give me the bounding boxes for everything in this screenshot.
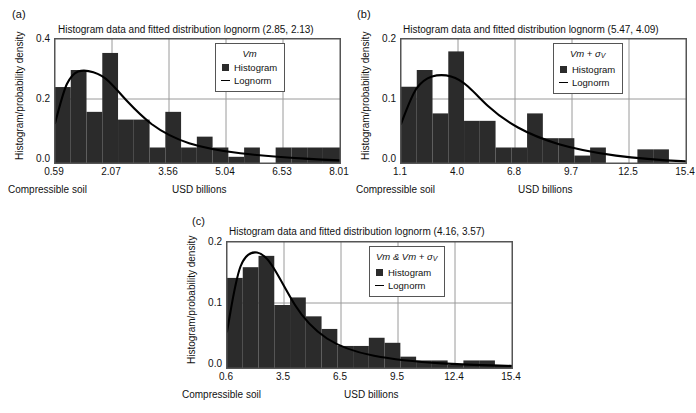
panel-c-xtick-0: 0.6	[206, 371, 246, 382]
histogram-swatch-icon	[222, 64, 229, 71]
panel-c-ytick-0: 0.0	[190, 358, 222, 369]
panel-a-title: Histogram data and fitted distribution l…	[58, 24, 314, 35]
lognorm-line-swatch-icon	[559, 82, 568, 83]
panel-a-letter: (a)	[12, 8, 26, 20]
panel-a-legend-row-lognorm: Lognorm	[222, 74, 277, 87]
panel-a-xtick-0: 0.59	[32, 166, 76, 177]
panel-c-legend-label-lognorm: Lognorm	[388, 279, 426, 292]
panel-c-xlabel: USD billions	[344, 389, 398, 400]
panel-c-xtick-2: 6.5	[320, 371, 360, 382]
panel-b-ytick-1: 0.1	[364, 93, 396, 104]
panel-c-xtick-5: 15.4	[491, 371, 531, 382]
panel-c-legend-label-histogram: Histogram	[388, 266, 431, 279]
panel-b-ytick-2: 0.2	[364, 33, 396, 44]
panel-a-xtick-4: 6.53	[260, 166, 304, 177]
panel-b-legend-label-histogram: Histogram	[572, 63, 615, 76]
panel-c-ytick-1: 0.1	[190, 297, 222, 308]
panel-b-corner-note: Compressible soil	[356, 184, 435, 195]
panel-c-xtick-1: 3.5	[263, 371, 303, 382]
panel-c-xtick-4: 12.4	[434, 371, 474, 382]
panel-a-legend-label-lognorm: Lognorm	[234, 74, 272, 87]
panel-b-xtick-1: 4.0	[437, 166, 477, 177]
panel-a-xlabel: USD billions	[172, 184, 226, 195]
panel-c-ytick-2: 0.2	[190, 236, 222, 247]
panel-c-legend: Vm & Vm + σV Histogram Lognorm	[369, 246, 445, 297]
panel-c-legend-row-lognorm: Lognorm	[376, 279, 437, 292]
panel-b-xlabel: USD billions	[518, 184, 572, 195]
panel-c-legend-title: Vm & Vm + σV	[376, 250, 437, 266]
panel-b-xtick-2: 6.8	[494, 166, 534, 177]
panel-a-legend-label-histogram: Histogram	[234, 61, 277, 74]
panel-c-xtick-3: 9.5	[377, 371, 417, 382]
panel-a-xtick-1: 2.07	[89, 166, 133, 177]
histogram-swatch-icon	[376, 269, 383, 276]
panel-c-letter: (c)	[192, 215, 205, 227]
panel-b-legend-row-histogram: Histogram	[560, 63, 615, 76]
histogram-swatch-icon	[560, 66, 567, 73]
panel-a-ytick-0: 0.0	[18, 153, 50, 164]
panel-a-corner-note: Compressible soil	[8, 184, 87, 195]
panel-a-svg	[55, 39, 340, 163]
panel-c-title: Histogram data and fitted distribution l…	[229, 226, 485, 237]
panel-c-corner-note: Compressible soil	[182, 389, 261, 400]
panel-b-letter: (b)	[357, 8, 371, 20]
panel-b-svg	[401, 39, 686, 163]
panel-a-ytick-1: 0.2	[18, 93, 50, 104]
lognorm-line-swatch-icon	[375, 285, 384, 286]
panel-c-plot-area: Vm & Vm + σV Histogram Lognorm	[226, 241, 513, 369]
panel-b-title: Histogram data and fitted distribution l…	[403, 24, 659, 35]
panel-a-ytick-2: 0.4	[18, 33, 50, 44]
panel-b-xtick-4: 12.5	[608, 166, 648, 177]
panel-a-legend-row-histogram: Histogram	[222, 61, 277, 74]
panel-b-xtick-5: 15.4	[665, 166, 696, 177]
panel-b-legend-row-lognorm: Lognorm	[560, 76, 615, 89]
panel-b-legend: Vm + σV Histogram Lognorm	[553, 43, 623, 94]
lognorm-line-swatch-icon	[221, 80, 230, 81]
panel-a-xtick-3: 5.04	[203, 166, 247, 177]
panel-a-legend: Vm Histogram Lognorm	[215, 43, 285, 92]
panel-c-legend-row-histogram: Histogram	[376, 266, 437, 279]
panel-b-ytick-0: 0.0	[364, 153, 396, 164]
panel-b-plot-area: Vm + σV Histogram Lognorm	[400, 38, 687, 164]
panel-a-plot-area: Vm Histogram Lognorm	[54, 38, 341, 164]
panel-b-legend-title: Vm + σV	[560, 47, 615, 63]
panel-b-xtick-3: 9.7	[551, 166, 591, 177]
panel-b-legend-label-lognorm: Lognorm	[572, 76, 610, 89]
panel-a-xtick-5: 8.01	[317, 166, 361, 177]
panel-b-xtick-0: 1.1	[380, 166, 420, 177]
panel-a-xtick-2: 3.56	[146, 166, 190, 177]
panel-a-legend-title: Vm	[222, 47, 277, 61]
